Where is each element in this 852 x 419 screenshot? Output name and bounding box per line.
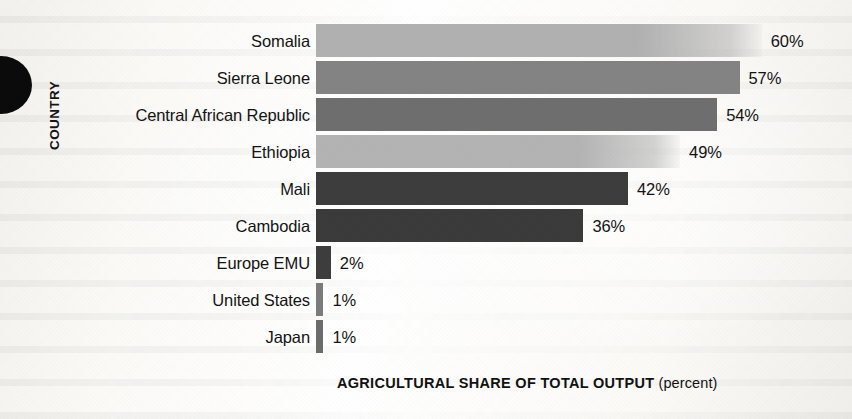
value-label: 1% [332, 327, 356, 346]
bar-row: United States1% [0, 281, 852, 318]
bar-row: Mali42% [0, 170, 852, 207]
bar [316, 61, 740, 94]
category-label: Japan [266, 327, 310, 346]
category-label: Central African Republic [135, 105, 310, 124]
x-axis-title: AGRICULTURAL SHARE OF TOTAL OUTPUT (perc… [337, 375, 717, 391]
value-label: 60% [771, 31, 804, 50]
bar-row: Europe EMU2% [0, 244, 852, 281]
bar-row: Somalia60% [0, 22, 852, 59]
bar-chart-plot-area: Somalia60%Sierra Leone57%Central African… [0, 0, 852, 419]
bar-row: Japan1% [0, 318, 852, 355]
value-label: 54% [726, 105, 759, 124]
value-label: 1% [332, 290, 356, 309]
category-label: Sierra Leone [217, 68, 310, 87]
category-label: United States [212, 290, 310, 309]
bar [316, 98, 717, 131]
category-label: Somalia [251, 31, 310, 50]
bar [316, 135, 680, 168]
bar [316, 283, 323, 316]
bar [316, 209, 583, 242]
x-axis-title-unit: (percent) [659, 375, 718, 391]
x-axis-title-main: AGRICULTURAL SHARE OF TOTAL OUTPUT [337, 375, 654, 391]
bar [316, 246, 331, 279]
bar-row: Central African Republic54% [0, 96, 852, 133]
bar [316, 24, 762, 57]
category-label: Ethiopia [251, 142, 310, 161]
bar [316, 172, 628, 205]
value-label: 57% [749, 68, 782, 87]
value-label: 49% [689, 142, 722, 161]
category-label: Cambodia [236, 216, 310, 235]
category-label: Europe EMU [217, 253, 310, 272]
value-label: 42% [637, 179, 670, 198]
bar [316, 320, 323, 353]
bar-row: Cambodia36% [0, 207, 852, 244]
category-label: Mali [280, 179, 310, 198]
bar-row: Ethiopia49% [0, 133, 852, 170]
value-label: 2% [340, 253, 364, 272]
value-label: 36% [592, 216, 625, 235]
bar-row: Sierra Leone57% [0, 59, 852, 96]
